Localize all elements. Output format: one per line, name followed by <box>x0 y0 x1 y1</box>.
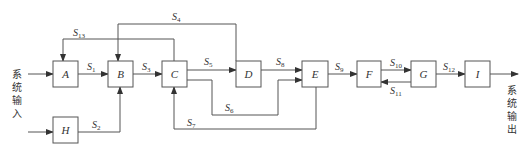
block-I: I <box>465 61 490 87</box>
block-F: F <box>357 61 381 87</box>
svg-text:A: A <box>61 68 69 80</box>
label-s7: S7 <box>187 117 196 130</box>
block-diagram: A B C D E F G H I S1 S2 S3 S4 S5 S6 S7 S… <box>0 0 529 148</box>
svg-text:E: E <box>311 68 319 80</box>
svg-text:D: D <box>244 68 253 80</box>
label-s11: S11 <box>390 85 402 98</box>
system-output-label: 系 统 输 出 <box>507 85 517 135</box>
svg-text:输: 输 <box>12 94 22 106</box>
block-A: A <box>53 61 78 87</box>
label-s10: S10 <box>390 57 403 70</box>
label-s12: S12 <box>443 61 456 74</box>
svg-text:系: 系 <box>507 85 517 96</box>
label-s1: S1 <box>87 61 96 74</box>
svg-text:输: 输 <box>507 110 517 122</box>
block-H: H <box>53 117 78 143</box>
svg-text:G: G <box>420 68 428 80</box>
label-s6: S6 <box>225 102 234 115</box>
svg-text:H: H <box>61 124 71 136</box>
block-E: E <box>302 61 328 87</box>
svg-text:B: B <box>117 68 124 80</box>
svg-text:C: C <box>171 68 179 80</box>
svg-text:入: 入 <box>12 108 22 119</box>
svg-text:统: 统 <box>507 97 517 109</box>
label-s5: S5 <box>204 56 213 69</box>
block-D: D <box>236 61 261 87</box>
svg-text:统: 统 <box>12 81 22 93</box>
label-s4: S4 <box>172 11 181 24</box>
svg-text:F: F <box>365 68 373 80</box>
svg-text:系: 系 <box>12 69 22 80</box>
label-s8: S8 <box>276 56 285 69</box>
label-s9: S9 <box>335 61 344 74</box>
label-s3: S3 <box>142 61 151 74</box>
block-G: G <box>411 61 436 87</box>
block-B: B <box>108 61 133 87</box>
block-C: C <box>162 61 187 87</box>
svg-text:出: 出 <box>507 123 517 135</box>
system-input-label: 系 统 输 入 <box>12 69 22 119</box>
label-s13: S13 <box>73 27 86 40</box>
s4-line <box>118 24 236 61</box>
label-s2: S2 <box>92 119 101 132</box>
connections <box>28 24 518 132</box>
